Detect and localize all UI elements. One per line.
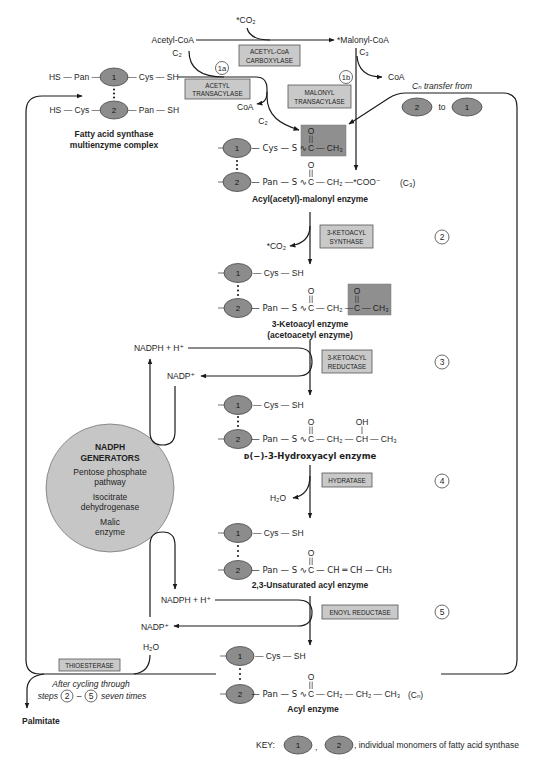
formula-row2-suffix: — CH ═ CH — CH₃: [316, 565, 392, 575]
enzyme-ketoacyl-synthase: 3-KETOACYL SYNTHASE: [320, 225, 373, 248]
formula-row2-middle: — CH₂ —: [316, 303, 354, 313]
monomer-1-label: 1: [112, 73, 117, 82]
formula-row1-prefix: — Cys — S ∿: [251, 143, 307, 153]
complex-row2-right: — Pan — SH: [128, 105, 179, 115]
coa-release-arrow-1a: [257, 92, 267, 104]
enzyme-label-line: 3-KETOACYL: [327, 354, 367, 361]
formula-row2-prefix: — Pan — S ∿: [251, 177, 307, 187]
enzyme-label-line: HYDRATASE: [328, 477, 366, 484]
acetyl-coa-label: Acetyl-CoA: [151, 35, 194, 45]
cycle-step-end: 5: [89, 691, 94, 701]
complex-label-line1: Fatty acid synthase: [75, 129, 154, 139]
monomer-2-label: 2: [415, 103, 420, 112]
step-1b-badge: 1b: [340, 71, 353, 84]
step-2-badge: 2: [435, 230, 449, 244]
co2-input-label: *CO₂: [236, 15, 255, 25]
complex-row1-left: HS — Pan —: [49, 72, 101, 82]
carbonyl-oxygen: O: [308, 126, 315, 136]
keto-oxygen: O: [354, 286, 361, 296]
formula-row2-suffix: — CH₃: [362, 303, 389, 313]
coa-release-arrow-1b: [357, 56, 382, 77]
carbonyl-carbon: C: [308, 689, 314, 699]
step-number: 4: [440, 476, 445, 486]
generator-item: Malic: [100, 517, 121, 527]
formula-row2-prefix: — Pan — S ∿: [251, 434, 307, 444]
formula-row2-suffix: — CH₃: [370, 434, 397, 444]
cn-transfer-loop-bottom: [441, 660, 517, 674]
enzyme-acetyl-transacylase: ACETYL TRANSACYLASE: [185, 79, 250, 99]
enzyme-label-line: MALONYL: [304, 89, 335, 96]
release-note: After cycling through steps 2 – 5 seven …: [22, 679, 147, 726]
cycle-note-times: seven times: [101, 691, 147, 701]
monomer-1-label: 1: [235, 144, 240, 153]
intermediate-alt-name: (acetoacetyl enzyme): [267, 330, 353, 340]
monomer-2-label: 2: [236, 435, 241, 444]
monomer-1-label: 1: [296, 741, 301, 750]
intermediate-name: 3-Ketoacyl enzyme: [272, 319, 349, 329]
palmitate-label: Palmitate: [22, 716, 60, 726]
generator-item: Pentose phosphate: [73, 467, 147, 477]
nadp-label-step3: NADP⁺: [167, 371, 195, 381]
generator-item: enzyme: [95, 527, 125, 537]
formula-row1-suffix: — CH₃: [316, 143, 343, 153]
carbonyl-oxygen: O: [308, 548, 315, 558]
enzyme-label-line: TRANSACYLASE: [192, 90, 242, 97]
step-5-badge: 5: [435, 605, 449, 619]
formula-row2-suffix: — CH₂ —*COO⁻: [316, 177, 380, 187]
enzyme-thioesterase: THIOESTERASE: [59, 659, 120, 671]
enzyme-enoyl-reductase: ENOYL REDUCTASE: [322, 605, 398, 619]
enzyme-ketoacyl-reductase: 3-KETOACYL REDUCTASE: [322, 350, 372, 373]
formula-row2-prefix: — Pan — S ∿: [251, 689, 307, 699]
carbonyl-oxygen: O: [308, 286, 315, 296]
monomer-1-label: 1: [236, 401, 241, 410]
cn-transfer-connector: to: [438, 102, 445, 112]
intermediate-name: Acyl enzyme: [287, 704, 339, 714]
acetyl-transfer-carbons: C₂: [258, 116, 267, 126]
monomer-2-label: 2: [238, 690, 243, 699]
monomer-2-label: 2: [236, 566, 241, 575]
carbonyl-oxygen: O: [308, 672, 315, 682]
carbonyl-carbon: C: [308, 303, 314, 313]
fas-complex: HS — Pan — 1 — Cys — SH HS — Cys — 2 — P…: [49, 68, 179, 150]
carbon-count: (C₃): [400, 178, 415, 188]
h2o-input-label: H₂O: [143, 642, 159, 652]
formula-row1: — Cys — SH: [253, 268, 304, 278]
fatty-acid-synthesis-diagram: NADPH GENERATORS Pentose phosphate pathw…: [0, 0, 536, 766]
cycle-note-steps: steps: [38, 691, 59, 701]
formula-row2-suffix: — CH₂ — CH₂ — CH₃: [316, 689, 400, 699]
enzyme-label-line: ACETYL: [205, 82, 230, 89]
carbonyl-oxygen: O: [308, 160, 315, 170]
hydroxyl-carbon: CH: [356, 434, 368, 444]
cycle-step-start: 2: [65, 691, 70, 701]
step-number: 2: [440, 232, 445, 242]
precursors: *CO₂ Acetyl-CoA C₂ *Malonyl-CoA C₃ CoA C…: [151, 15, 404, 126]
formula-row2-middle: — CH₂ —: [316, 434, 354, 444]
key-label: KEY:: [256, 740, 275, 750]
step-number: 1a: [218, 64, 227, 73]
enzyme-label-line: ACETYL-CoA: [250, 48, 290, 55]
h2o-release-arrow: [293, 476, 310, 498]
nadph-generators-title-1: NADPH: [95, 442, 125, 452]
formula-row2-prefix: — Pan — S ∿: [251, 303, 307, 313]
key-description: , individual monomers of fatty acid synt…: [354, 740, 519, 750]
step-3-badge: 3: [435, 355, 449, 369]
formula-row1: — Cys — SH: [253, 528, 304, 538]
monomer-2-label: 2: [112, 106, 117, 115]
nadph-generators-title-2: GENERATORS: [80, 453, 140, 463]
intermediate-name: ᴅ(−)-3-Hydroxyacyl enzyme: [244, 451, 377, 461]
monomer-1-label: 1: [236, 269, 241, 278]
enzyme-label-line: TRANSACYLASE: [294, 98, 344, 105]
enzyme-label-line: CARBOXYLASE: [246, 57, 293, 64]
step-number: 1b: [342, 73, 350, 82]
cn-transfer-label: Cₙ transfer from: [412, 81, 472, 91]
recycle-loop-arrow: [26, 96, 82, 660]
generator-item: Isocitrate: [93, 492, 128, 502]
intermediate-ketoacyl-enzyme: 1 — Cys — SH 2 — Pan — S ∿ O C — CH₂ — O…: [218, 264, 391, 341]
monomer-1-label: 1: [465, 103, 470, 112]
intermediate-acyl-enzyme: 1 — Cys — SH 2 — Pan — S ∿ O C — CH₂ — C…: [220, 647, 423, 715]
enzyme-malonyl-transacylase: MALONYL TRANSACYLASE: [288, 85, 351, 108]
carbonyl-carbon: C: [308, 434, 314, 444]
intermediate-name: Acyl(acetyl)-malonyl enzyme: [252, 194, 368, 204]
monomer-2-label: 2: [235, 178, 240, 187]
complex-row1-right: — Cys — SH: [128, 72, 179, 82]
